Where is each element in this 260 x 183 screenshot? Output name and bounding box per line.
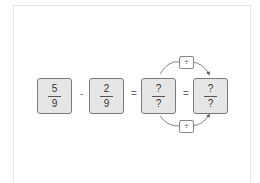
fraction-bar	[48, 96, 61, 97]
numerator: ?	[208, 84, 214, 94]
divide-icon-bottom: ÷	[179, 120, 194, 133]
equals-operator: =	[131, 88, 137, 99]
answer-box-1[interactable]: ? ?	[141, 78, 176, 114]
denominator: 9	[52, 99, 58, 109]
minus-operator: -	[80, 88, 83, 99]
denominator: 9	[104, 99, 110, 109]
fraction-bar	[152, 96, 165, 97]
numerator: 2	[104, 84, 110, 94]
numerator: 5	[52, 84, 58, 94]
fraction-box-2: 2 9	[89, 78, 124, 114]
fraction-bar	[100, 96, 113, 97]
fraction-box-1: 5 9	[37, 78, 72, 114]
divide-icon-top: ÷	[179, 56, 194, 69]
numerator: ?	[156, 84, 162, 94]
equals-operator: =	[183, 88, 189, 99]
answer-box-2[interactable]: ? ?	[193, 78, 228, 114]
fraction-bar	[204, 96, 217, 97]
denominator: ?	[156, 99, 162, 109]
denominator: ?	[208, 99, 214, 109]
